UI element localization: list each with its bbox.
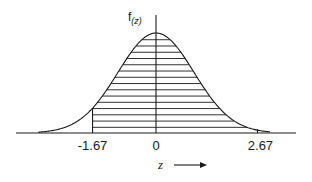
y-axis-label: f(z) [128,10,142,26]
tick-label-lower: -1.67 [78,138,108,153]
normal-distribution-figure: f(z) -1.67 0 2.67 z [0,0,312,182]
normal-curve [38,33,270,132]
tick-label-upper: 2.67 [248,138,273,153]
shaded-area-hatching [93,40,248,128]
tick-label-zero: 0 [152,138,159,153]
y-axis-label-sub: (z) [131,16,142,26]
right-arrow-icon [174,162,207,168]
x-axis-label: z [157,157,163,172]
normal-curve-plot: f(z) -1.67 0 2.67 z [0,0,312,182]
